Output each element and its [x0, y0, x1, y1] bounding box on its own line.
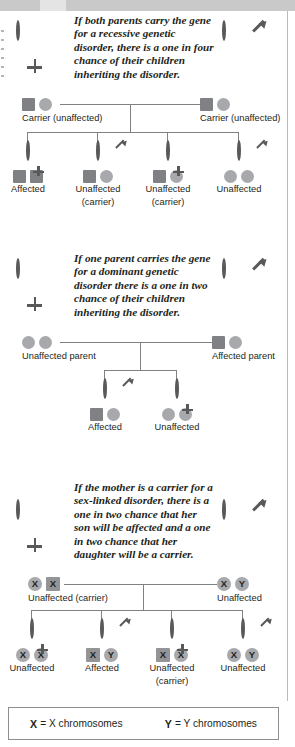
female-symbol-icon [30, 620, 34, 638]
child-label: Unaffected [72, 184, 124, 196]
mother-symbol [16, 22, 20, 40]
section-dominant-caption: If one parent carries the gene for a dom… [74, 252, 214, 319]
allele-circle [224, 170, 237, 183]
allele-circle [39, 336, 52, 349]
section-recessive-caption: If both parents carry the gene for a rec… [74, 14, 214, 81]
legend-x-key: X [30, 718, 37, 730]
child-node: Affected [79, 380, 131, 435]
parent-right-label: Affected parent [212, 351, 275, 363]
parent-left-alleles: X X Unaffected (carrier) [28, 577, 108, 605]
chromosome-x-circle: X [16, 648, 30, 662]
chromosome-x-circle: X [217, 577, 231, 591]
top-band-highlight [40, 0, 66, 11]
right-margin-rule [287, 11, 288, 701]
allele-circle [241, 170, 254, 183]
allele-square [83, 170, 96, 183]
mating-line [64, 584, 217, 585]
child-label: Unaffected [213, 184, 265, 196]
descent-line [143, 584, 144, 610]
male-symbol-icon [103, 380, 107, 398]
child-label: Affected [2, 184, 54, 196]
male-symbol-icon [237, 142, 241, 160]
parent-left-alleles: Unaffected parent [22, 336, 96, 363]
child-label: Affected [79, 422, 131, 434]
legend-y-text: = Y chromosomes [175, 718, 257, 729]
female-symbol-icon [175, 380, 179, 398]
allele-circle [217, 98, 230, 111]
child-node: Unaffected (carrier) [142, 142, 194, 208]
allele-circle [107, 408, 120, 421]
allele-square [90, 408, 103, 421]
female-symbol-icon [170, 620, 174, 638]
left-edge-marks [1, 30, 4, 100]
female-symbol-icon [16, 22, 20, 40]
chromosome-x-square: X [46, 577, 60, 591]
chromosome-y-circle: Y [245, 648, 259, 662]
legend-entry-x: X = X chromosomes [30, 718, 122, 730]
male-symbol-icon [100, 620, 104, 638]
child-sublabel: (carrier) [72, 197, 124, 209]
father-symbol [222, 501, 226, 519]
female-symbol-icon [26, 142, 30, 160]
child-label: Unaffected [217, 663, 269, 675]
parent-left-label: Unaffected (carrier) [28, 593, 108, 605]
child-node: X X Unaffected [6, 620, 58, 676]
parent-right-alleles: Carrier (unaffected) [200, 98, 280, 125]
sibship-line [104, 370, 176, 371]
legend-entry-y: Y = Y chromosomes [165, 718, 257, 730]
legend-x-text: = X chromosomes [40, 718, 122, 729]
child-label: Unaffected [146, 663, 198, 675]
child-label: Unaffected [6, 663, 58, 675]
female-symbol-icon [166, 142, 170, 160]
allele-circle [39, 98, 52, 111]
chromosome-x-circle: X [28, 577, 42, 591]
child-node: X Y Affected [76, 620, 128, 676]
chromosome-x-circle: X [227, 648, 241, 662]
allele-square [200, 98, 213, 111]
allele-circle [162, 408, 175, 421]
parent-right-label: Unaffected [217, 593, 262, 605]
female-symbol-icon [16, 501, 20, 519]
allele-circle [22, 336, 35, 349]
sibship-line [31, 610, 242, 611]
allele-circle [229, 336, 242, 349]
section-sex-linked-caption: If the mother is a carrier for a sex-lin… [74, 481, 214, 561]
allele-circle [100, 170, 113, 183]
allele-square [22, 98, 35, 111]
chromosome-y-circle: Y [104, 648, 118, 662]
child-node: Unaffected [151, 380, 203, 435]
pedigree-diagram-page: If both parents carry the gene for a rec… [0, 0, 295, 747]
child-node: Affected [2, 142, 54, 197]
allele-square [212, 336, 225, 349]
parent-left-label: Carrier (unaffected) [22, 113, 102, 125]
parent-left-label: Unaffected parent [22, 351, 96, 363]
chromosome-x-square: X [86, 648, 100, 662]
child-sublabel: (carrier) [146, 676, 198, 688]
child-label: Unaffected [142, 184, 194, 196]
chromosome-x-square: X [156, 648, 170, 662]
child-label: Unaffected [151, 422, 203, 434]
male-symbol-icon [96, 142, 100, 160]
male-symbol-icon [241, 620, 245, 638]
descent-line [140, 342, 141, 370]
sibship-line [27, 132, 238, 133]
chromosome-legend: X = X chromosomes Y = Y chromosomes [8, 707, 279, 740]
mating-line [60, 342, 212, 343]
child-node: X X Unaffected (carrier) [146, 620, 198, 687]
parent-left-alleles: Carrier (unaffected) [22, 98, 102, 125]
child-node: Unaffected [213, 142, 265, 197]
male-symbol-icon [222, 260, 226, 278]
descent-line [130, 104, 131, 132]
female-symbol-icon [16, 260, 20, 278]
male-symbol-icon [222, 22, 226, 40]
mother-symbol [16, 260, 20, 278]
male-symbol-icon [222, 501, 226, 519]
parent-right-alleles: X Y Unaffected [217, 577, 262, 605]
child-sublabel: (carrier) [142, 197, 194, 209]
allele-square [13, 170, 26, 183]
father-symbol [222, 260, 226, 278]
parent-right-label: Carrier (unaffected) [200, 113, 280, 125]
mother-symbol [16, 501, 20, 519]
allele-square [153, 170, 166, 183]
father-symbol [222, 22, 226, 40]
